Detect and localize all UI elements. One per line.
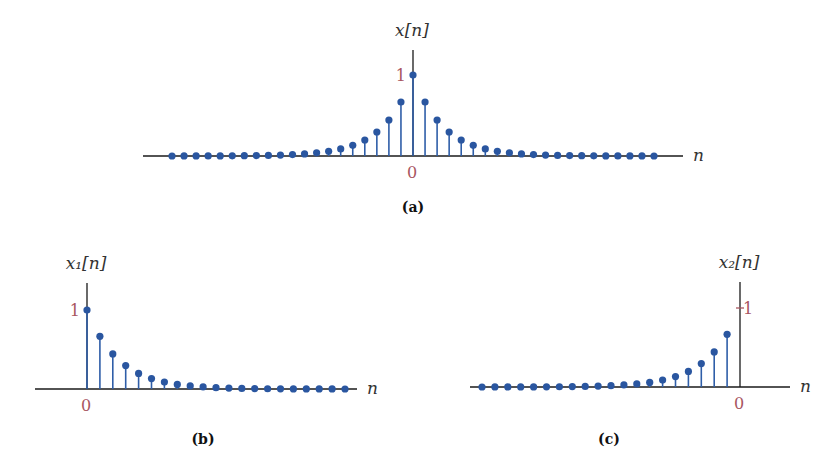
- stem-marker: [566, 152, 573, 159]
- stem-marker: [200, 383, 207, 390]
- y-axis-title: x₂[n]: [719, 252, 760, 272]
- stems: [478, 331, 730, 391]
- stem-marker: [590, 152, 597, 159]
- stem-marker: [349, 142, 356, 149]
- y-axis-title: x₁[n]: [66, 253, 107, 273]
- stem-marker: [578, 152, 585, 159]
- x-axis-title: n: [367, 378, 378, 398]
- stem-marker: [289, 151, 296, 158]
- stem-plot-c: x₂[n] n 1 0 (c): [470, 252, 811, 447]
- x-axis-title: n: [693, 145, 704, 165]
- stem-marker: [212, 384, 219, 391]
- stem-marker: [122, 362, 129, 369]
- stem-marker: [517, 383, 524, 390]
- stem-marker: [313, 149, 320, 156]
- stem-marker: [434, 116, 441, 123]
- stem-marker: [633, 380, 640, 387]
- stem-marker: [504, 383, 511, 390]
- stem-marker: [341, 385, 348, 392]
- stem-marker: [626, 152, 633, 159]
- stem-marker: [205, 152, 212, 159]
- stem-marker: [569, 383, 576, 390]
- stem-marker: [316, 385, 323, 392]
- stem-marker: [530, 151, 537, 158]
- stem-marker: [518, 150, 525, 157]
- x-tick-zero: 0: [734, 394, 744, 413]
- stem-marker: [446, 128, 453, 135]
- stem-marker: [478, 383, 485, 390]
- stem-marker: [595, 382, 602, 389]
- stems: [83, 306, 348, 392]
- stem-marker: [187, 382, 194, 389]
- stem-marker: [168, 152, 175, 159]
- stem-marker: [241, 152, 248, 159]
- stem-marker: [303, 385, 310, 392]
- stem-marker: [225, 384, 232, 391]
- stem-marker: [421, 98, 428, 105]
- stem-marker: [458, 136, 465, 143]
- stem-marker: [373, 128, 380, 135]
- stem-marker: [83, 306, 90, 313]
- stem-marker: [724, 331, 731, 338]
- stem-marker: [542, 151, 549, 158]
- stem-marker: [265, 152, 272, 159]
- stem-marker: [180, 152, 187, 159]
- stem-marker: [174, 381, 181, 388]
- y-tick-one: 1: [743, 299, 753, 318]
- stem-marker: [672, 373, 679, 380]
- stem-marker: [217, 152, 224, 159]
- y-tick-one: 1: [70, 301, 80, 320]
- stem-marker: [193, 152, 200, 159]
- stem-marker: [135, 370, 142, 377]
- stem-marker: [646, 379, 653, 386]
- stem-marker: [301, 150, 308, 157]
- stems: [168, 71, 657, 159]
- stem-marker: [470, 142, 477, 149]
- stem-marker: [251, 385, 258, 392]
- stem-marker: [277, 151, 284, 158]
- stem-marker: [361, 136, 368, 143]
- stem-marker: [238, 385, 245, 392]
- stem-marker: [229, 152, 236, 159]
- stem-marker: [148, 375, 155, 382]
- stem-marker: [277, 385, 284, 392]
- stem-marker: [543, 383, 550, 390]
- stem-marker: [650, 152, 657, 159]
- stem-marker: [325, 148, 332, 155]
- stem-marker: [614, 152, 621, 159]
- stem-marker: [385, 116, 392, 123]
- stem-marker: [96, 333, 103, 340]
- stem-marker: [582, 383, 589, 390]
- x-axis-title: n: [800, 376, 811, 396]
- stem-marker: [530, 383, 537, 390]
- stem-marker: [264, 385, 271, 392]
- stem-marker: [556, 383, 563, 390]
- stem-marker: [685, 368, 692, 375]
- stem-marker: [491, 383, 498, 390]
- caption-a: (a): [402, 199, 424, 215]
- stem-marker: [397, 98, 404, 105]
- stem-marker: [698, 360, 705, 367]
- stem-marker: [337, 145, 344, 152]
- stem-marker: [607, 382, 614, 389]
- stem-marker: [638, 152, 645, 159]
- stem-plot-a: x[n] n 1 0 (a): [143, 20, 704, 215]
- caption-b: (b): [191, 431, 214, 447]
- caption-c: (c): [598, 431, 620, 447]
- stem-marker: [620, 381, 627, 388]
- x-tick-zero: 0: [81, 396, 91, 415]
- stem-marker: [506, 149, 513, 156]
- stem-marker: [659, 376, 666, 383]
- stem-marker: [109, 350, 116, 357]
- stem-marker: [494, 148, 501, 155]
- stem-marker: [711, 348, 718, 355]
- stem-marker: [253, 152, 260, 159]
- stem-marker: [482, 145, 489, 152]
- stem-marker: [554, 152, 561, 159]
- stem-plots-figure: x[n] n 1 0 (a) x₁[n] n 1 0 (b) x₂[n] n 1…: [0, 0, 838, 475]
- stem-plot-b: x₁[n] n 1 0 (b): [35, 253, 378, 447]
- stem-marker: [161, 378, 168, 385]
- stem-marker: [290, 385, 297, 392]
- y-axis-title: x[n]: [395, 20, 429, 40]
- stem-marker: [602, 152, 609, 159]
